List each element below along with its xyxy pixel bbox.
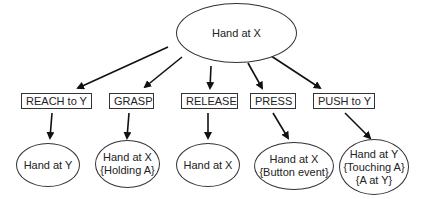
edge-root-reach (78, 47, 168, 88)
root-node: Hand at X (176, 3, 297, 63)
edge-reach-result (50, 113, 52, 138)
edge-press-result (273, 113, 288, 138)
edge-root-press (248, 63, 262, 88)
result-reach: Hand at Y (16, 143, 80, 187)
edge-root-release (210, 66, 211, 88)
result-press: Hand at X {Button event} (254, 142, 334, 190)
result-grasp: Hand at X {Holding A} (95, 140, 160, 188)
edge-root-grasp (145, 57, 182, 87)
action-reach: REACH to Y (21, 93, 92, 109)
result-push: Hand at Y {Touching A} {A at Y} (339, 139, 409, 195)
edge-grasp-result (127, 113, 129, 138)
edge-push-result (345, 113, 370, 138)
root-label: Hand at X (212, 27, 261, 40)
result-release: Hand at X (176, 143, 240, 187)
action-grasp: GRASP (109, 93, 154, 109)
action-press: PRESS (250, 93, 296, 109)
action-release: RELEASE (181, 93, 238, 109)
action-push: PUSH to Y (313, 93, 375, 109)
